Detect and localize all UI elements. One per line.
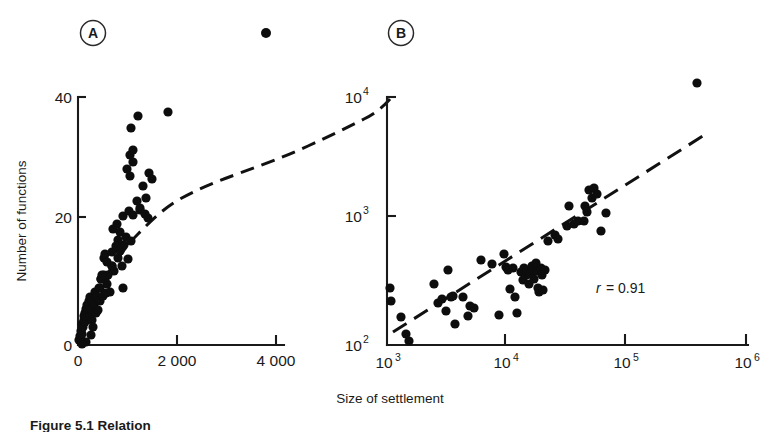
svg-text:5: 5: [633, 351, 639, 363]
panel-a-yticklabel-40: 40: [55, 89, 73, 106]
panel-b-annotation-value: = 0.91: [606, 280, 646, 296]
svg-text:3: 3: [363, 204, 369, 216]
panel-a-ylabel: Number of functions: [14, 160, 29, 281]
svg-text:4: 4: [513, 351, 519, 363]
svg-text:10: 10: [345, 89, 363, 106]
figure-svg: A Number of functions 40 20 0 0 2 000 4 …: [0, 0, 774, 432]
panel-a-offscale-point: [261, 28, 271, 38]
svg-text:10: 10: [493, 354, 511, 371]
svg-text:4: 4: [363, 85, 369, 97]
shared-xlabel: Size of settlement: [336, 391, 444, 406]
svg-text:10: 10: [613, 354, 631, 371]
panel-a-yticklabel-20: 20: [55, 209, 73, 226]
svg-text:10: 10: [345, 208, 363, 225]
panel-a-xticklabel-2000: 2 000: [158, 352, 197, 369]
panel-a-xticklabel-0: 0: [74, 352, 83, 369]
svg-text:10: 10: [734, 354, 752, 371]
figure-caption: Figure 5.1 Relation: [30, 418, 151, 432]
svg-text:6: 6: [754, 351, 760, 363]
panel-b-letter: B: [396, 25, 406, 41]
svg-text:3: 3: [395, 351, 401, 363]
svg-text:2: 2: [363, 333, 369, 345]
figure-container: A Number of functions 40 20 0 0 2 000 4 …: [0, 0, 774, 432]
panel-a-yticklabel-0: 0: [63, 337, 72, 354]
panel-a-letter: A: [88, 25, 98, 41]
svg-text:10: 10: [345, 337, 363, 354]
panel-a-xticklabel-4000: 4 000: [257, 352, 296, 369]
svg-text:10: 10: [375, 354, 393, 371]
